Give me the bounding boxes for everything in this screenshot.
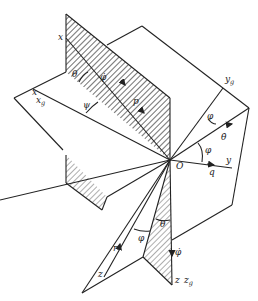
euler-angle-diagram: x x xg θ φ̇ ψ p yg φ θ̇ φ O y q θ φ r φ̇… bbox=[0, 0, 258, 301]
r-arrow bbox=[119, 244, 120, 248]
theta-dot-label: θ̇ bbox=[221, 132, 227, 142]
origin-label: O bbox=[176, 161, 184, 171]
theta-label-bottom: θ bbox=[160, 219, 166, 229]
theta-dot-arrow bbox=[226, 124, 232, 125]
phi-label-right-top: φ bbox=[207, 111, 214, 121]
phi-dot-label-bottom: φ̇ bbox=[175, 247, 182, 257]
theta-label-top: θ bbox=[72, 69, 78, 79]
y-label: y bbox=[225, 155, 232, 165]
phi-label-bottom: φ bbox=[138, 233, 145, 243]
psi-label: ψ bbox=[83, 100, 91, 110]
phi-arc-right bbox=[198, 143, 203, 162]
r-label: r bbox=[113, 243, 118, 253]
x-label-top: x bbox=[58, 32, 63, 42]
yg-label: yg bbox=[224, 74, 234, 86]
p-label: p bbox=[133, 96, 139, 106]
z-label-left: z bbox=[97, 269, 103, 279]
zg-label: zg bbox=[183, 275, 193, 287]
phi-arc-bottom bbox=[134, 229, 150, 231]
xg-label: xg bbox=[36, 95, 45, 107]
q-label: q bbox=[209, 167, 215, 177]
z-label-bottom: z bbox=[174, 275, 180, 285]
phi-dot-label-top: φ̇ bbox=[100, 72, 107, 82]
phi-label-right: φ bbox=[205, 145, 212, 155]
